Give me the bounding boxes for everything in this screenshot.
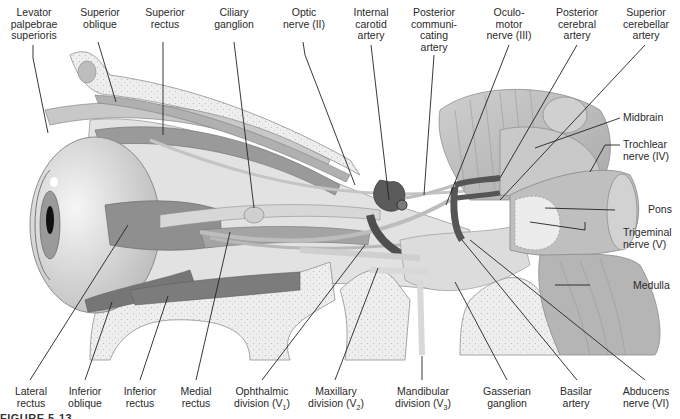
label-inferior-oblique: Inferior oblique [62, 386, 108, 409]
label-mandibular-text: Mandibular division (V [395, 385, 449, 409]
label-ophthalmic-division: Ophthalmic division (V1) [228, 386, 296, 413]
label-trochlear-nerve: Trochlear nerve (IV) [623, 139, 669, 162]
label-mandibular-division: Mandibular division (V3) [388, 386, 458, 413]
label-mandibular-tail: ) [447, 397, 451, 409]
label-optic-nerve: Optic nerve (II) [275, 7, 333, 30]
midbrain-shape [543, 97, 587, 133]
label-superior-cerebellar: Superior cerebellar artery [616, 7, 676, 42]
label-maxillary-tail: ) [360, 397, 364, 409]
label-superior-rectus: Superior rectus [140, 7, 190, 30]
figure-caption: FIGURE 5-13 [0, 411, 72, 419]
leader-int-carotid [371, 45, 389, 200]
leader-post-comm [424, 55, 434, 195]
label-inferior-rectus: Inferior rectus [117, 386, 163, 409]
pupil [46, 206, 54, 234]
label-oculomotor-nerve: Oculo- motor nerve (III) [478, 7, 540, 42]
label-ophthalmic-text: Ophthalmic division (V [234, 385, 288, 409]
carotid-lumen [397, 200, 407, 210]
leader-levator [33, 45, 48, 133]
label-ophthalmic-tail: ) [286, 397, 290, 409]
eye-highlight [50, 177, 58, 187]
anatomy-illustration [0, 0, 680, 419]
label-levator-palpebrae: Levator palpebrae superioris [4, 7, 64, 42]
mandibular-div [420, 280, 422, 355]
label-medulla: Medulla [633, 280, 670, 292]
label-internal-carotid: Internal carotid artery [348, 7, 394, 42]
label-medial-rectus: Medial rectus [173, 386, 219, 409]
label-pons: Pons [648, 204, 672, 216]
frontal-sinus [78, 61, 96, 83]
label-abducens-nerve: Abducens nerve (VI) [616, 386, 676, 409]
maxillary-div [370, 270, 430, 272]
label-maxillary-division: Maxillary division (V2) [302, 386, 370, 413]
label-trigeminal-nerve: Trigeminal nerve (V) [623, 227, 672, 250]
label-lateral-rectus: Lateral rectus [8, 386, 54, 409]
label-superior-oblique: Superior oblique [75, 7, 125, 30]
label-ciliary-ganglion: Ciliary ganglion [209, 7, 259, 30]
ciliary-ganglion-shape [244, 207, 264, 223]
label-posterior-cerebral: Posterior cerebral artery [548, 7, 606, 42]
label-gasserian-ganglion: Gasserian ganglion [478, 386, 536, 409]
medulla-shape [539, 254, 660, 355]
label-maxillary-text: Maxillary division (V [308, 385, 357, 409]
label-midbrain: Midbrain [623, 112, 663, 124]
label-posterior-communicating: Posterior communi- cating artery [404, 7, 464, 53]
label-basilar-artery: Basilar artery [553, 386, 599, 409]
